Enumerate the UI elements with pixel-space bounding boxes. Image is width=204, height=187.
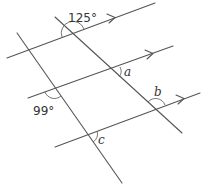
angle-label-c: c [98,133,105,147]
transversal-middle [55,17,182,133]
parallel-line-2 [28,46,173,98]
angle-label-a: a [124,65,131,79]
parallel-line-3 [55,93,200,147]
geometry-diagram: 125° 99° a b c [0,0,204,187]
angle-label-b: b [154,85,162,99]
angle-label-125: 125° [68,11,97,25]
angle-label-99: 99° [33,104,54,118]
parallel-arrow-icon [176,95,184,104]
parallel-arrow-icon [107,14,115,23]
